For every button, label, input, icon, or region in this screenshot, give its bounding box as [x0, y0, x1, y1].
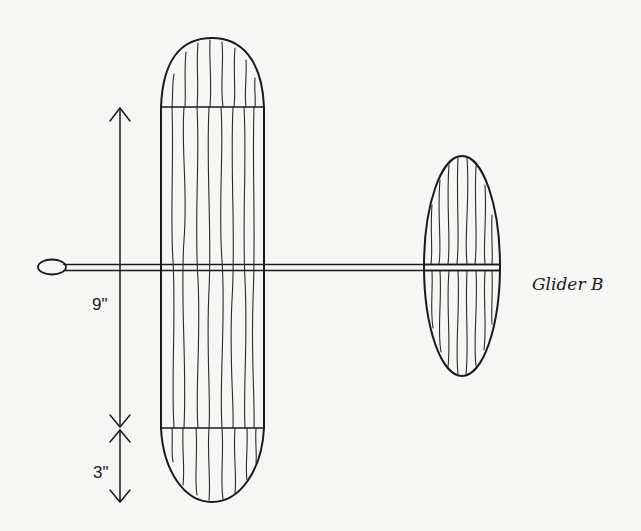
fuselage-stick [64, 265, 500, 271]
dimension-label-9in: 9" [92, 295, 108, 314]
elliptical-stabilizer [424, 156, 500, 376]
dimension-label-3in: 3" [93, 463, 109, 482]
glider-label: Glider B [532, 274, 603, 294]
glider-diagram: 9" 3" Glider B [0, 0, 641, 531]
dimension-3in [110, 430, 130, 502]
dimension-9in [110, 108, 130, 427]
nose-loop [38, 260, 66, 275]
